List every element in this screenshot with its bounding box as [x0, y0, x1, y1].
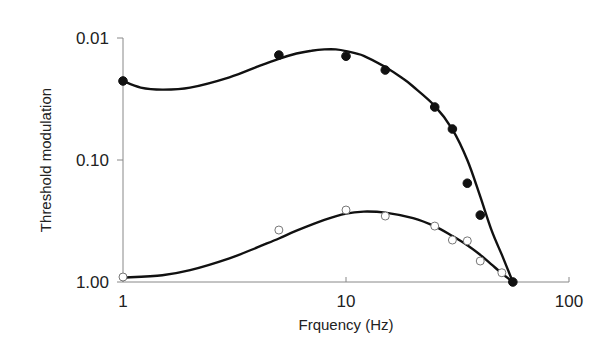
data-point-open: [498, 269, 506, 277]
data-point-open: [119, 273, 127, 281]
data-point-filled: [119, 77, 128, 86]
data-point-open: [463, 237, 471, 245]
y-ticks: 0.010.101.00: [76, 29, 123, 292]
data-point-filled: [430, 103, 439, 112]
x-tick-label: 1: [118, 292, 127, 311]
y-axis-title: Threshold modulation: [37, 88, 54, 232]
data-point-filled: [509, 278, 518, 287]
fit-curve-open: [123, 212, 513, 282]
data-points: [119, 51, 517, 287]
data-point-filled: [275, 51, 284, 60]
data-point-filled: [463, 179, 472, 188]
chart: 0.010.101.00 110100 Frquency (Hz) Thresh…: [0, 0, 612, 357]
data-point-open: [275, 226, 283, 234]
data-point-open: [448, 236, 456, 244]
x-tick-label: 10: [337, 292, 356, 311]
fit-curves: [123, 49, 513, 282]
x-axis-title: Frquency (Hz): [298, 316, 393, 333]
data-point-open: [342, 206, 350, 214]
y-tick-label: 0.10: [76, 151, 109, 170]
data-point-filled: [381, 66, 390, 75]
data-point-filled: [476, 211, 485, 220]
data-point-filled: [342, 52, 351, 61]
y-tick-label: 0.01: [76, 29, 109, 48]
fit-curve-filled: [123, 49, 513, 282]
data-point-open: [476, 257, 484, 265]
data-point-open: [381, 212, 389, 220]
data-point-open: [431, 222, 439, 230]
y-tick-label: 1.00: [76, 273, 109, 292]
x-tick-label: 100: [555, 292, 583, 311]
data-point-filled: [448, 125, 457, 134]
